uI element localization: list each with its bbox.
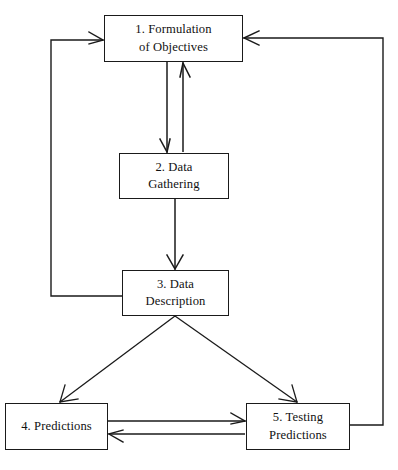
- edge-formulation-to-gathering: [160, 62, 170, 152]
- node-testing-line-2: Predictions: [269, 427, 327, 444]
- node-gathering-line-2: Gathering: [148, 176, 199, 193]
- flowchart-diagram: 1. Formulation of Objectives 2. Data Gat…: [0, 0, 398, 470]
- node-data-gathering[interactable]: 2. Data Gathering: [119, 153, 229, 199]
- node-formulation-line-2: of Objectives: [139, 39, 208, 56]
- node-description-line-1: 3. Data: [157, 276, 194, 293]
- node-formulation-line-1: 1. Formulation: [135, 21, 211, 38]
- edge-gathering-to-description: [167, 199, 183, 269]
- node-predictions-line-1: 4. Predictions: [21, 418, 92, 435]
- node-gathering-line-1: 2. Data: [155, 159, 192, 176]
- edge-description-to-predictions: [60, 316, 175, 402]
- node-testing-predictions[interactable]: 5. Testing Predictions: [246, 403, 350, 450]
- node-data-description[interactable]: 3. Data Description: [122, 270, 229, 316]
- edge-description-to-testing: [175, 316, 297, 402]
- node-predictions[interactable]: 4. Predictions: [5, 403, 108, 450]
- node-formulation-of-objectives[interactable]: 1. Formulation of Objectives: [104, 15, 243, 62]
- edge-predictions-to-testing: [108, 413, 245, 424]
- flowchart-connectors: [0, 0, 398, 470]
- node-description-line-2: Description: [146, 293, 206, 310]
- edge-description-to-formulation-feedback: [51, 32, 122, 296]
- edge-testing-to-formulation-feedback: [244, 31, 383, 425]
- edge-testing-to-predictions: [109, 430, 245, 442]
- edge-gathering-to-formulation: [180, 63, 190, 152]
- node-testing-line-1: 5. Testing: [273, 409, 323, 426]
